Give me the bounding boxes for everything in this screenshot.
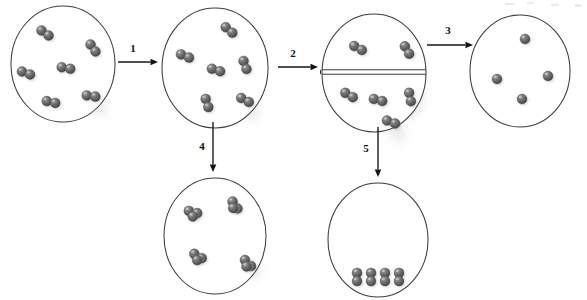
atom-highlight	[382, 278, 385, 280]
process-arrow-3: 3	[427, 24, 473, 48]
atom-highlight	[408, 98, 411, 100]
arrow-label-5: 5	[363, 142, 369, 154]
arrow-head	[311, 64, 319, 71]
atom-highlight	[223, 24, 226, 26]
vessel-outline	[328, 183, 428, 297]
atom-highlight	[44, 98, 47, 100]
molecule	[394, 268, 405, 288]
atom-highlight	[368, 270, 371, 272]
atom-highlight	[243, 263, 246, 265]
arrow-head	[375, 170, 382, 178]
atom-highlight	[396, 270, 399, 272]
process-arrow-2: 2	[278, 47, 318, 70]
atom-highlight	[27, 71, 30, 73]
atom-highlight	[238, 95, 241, 97]
arrow-head	[466, 42, 474, 49]
atom-highlight	[52, 100, 55, 102]
vessel-outline	[164, 178, 266, 294]
atom-highlight	[342, 90, 345, 92]
atom-highlight	[202, 96, 205, 98]
atom-highlight	[240, 58, 243, 60]
process-arrow-4: 4	[199, 122, 216, 172]
atom-highlight	[45, 32, 48, 34]
atom-highlight	[84, 92, 87, 94]
scan-artifact-4	[575, 4, 581, 7]
vessel-outline	[470, 15, 570, 127]
atom-highlight	[351, 43, 354, 45]
arrow-label-3: 3	[445, 24, 451, 36]
arrow-head	[151, 59, 159, 66]
atom-highlight	[186, 208, 189, 210]
atom-highlight	[350, 94, 353, 96]
vessel-outline	[322, 14, 426, 132]
atom-highlight	[178, 51, 181, 53]
molecule	[352, 268, 363, 288]
atom-highlight	[392, 120, 395, 122]
scan-artifact-2	[527, 2, 534, 4]
process-arrow-1: 1	[118, 42, 158, 65]
atom-highlight	[371, 96, 374, 98]
atom-highlight	[354, 270, 357, 272]
atom-highlight	[230, 205, 233, 207]
artifact-layer	[505, 2, 581, 7]
atom-highlight	[186, 54, 189, 56]
atom-highlight	[59, 64, 62, 66]
process-arrow-5: 5	[363, 127, 381, 177]
atom-highlight	[229, 30, 232, 32]
diagram-svg: 12345	[0, 0, 587, 300]
atom-highlight	[217, 68, 220, 70]
atom-highlight	[368, 278, 371, 280]
triatomic-cluster-container	[164, 178, 266, 294]
arrow-label-2: 2	[290, 47, 296, 59]
atom-highlight	[191, 251, 194, 253]
atom-highlight	[205, 104, 208, 106]
atom-highlight	[87, 41, 90, 43]
scan-artifact-3	[551, 4, 559, 6]
arrow-label-4: 4	[199, 140, 205, 152]
arrow-label-1: 1	[130, 42, 136, 54]
scan-artifact-1	[505, 3, 514, 5]
atom-highlight	[379, 98, 382, 100]
atom-highlight	[396, 278, 399, 280]
atom-highlight	[522, 36, 525, 38]
atom-highlight	[19, 68, 22, 70]
molecule	[366, 268, 377, 288]
diagram-canvas: 12345	[0, 0, 587, 300]
atom-highlight	[246, 99, 249, 101]
atom-highlight	[519, 96, 522, 98]
atom-highlight	[194, 257, 197, 259]
atom-highlight	[92, 48, 95, 50]
arrow-head	[210, 165, 217, 173]
atom-highlight	[92, 93, 95, 95]
atom-highlight	[209, 66, 212, 68]
atom-highlight	[67, 66, 70, 68]
partitioned-container	[321, 14, 426, 132]
atom-highlight	[38, 27, 41, 29]
atom-highlight	[406, 90, 409, 92]
atom-highlight	[382, 270, 385, 272]
atom-highlight	[243, 66, 246, 68]
atom-highlight	[402, 43, 405, 45]
molecule	[380, 268, 391, 288]
atom-highlight	[242, 257, 245, 259]
atom-highlight	[229, 198, 232, 200]
atom-highlight	[354, 278, 357, 280]
atom-highlight	[406, 51, 409, 53]
atom-highlight	[359, 47, 362, 49]
atom-highlight	[190, 213, 193, 215]
atom-highlight	[494, 76, 497, 78]
atom-highlight	[545, 73, 548, 75]
dissociated-atoms-container	[470, 15, 570, 127]
atom-highlight	[384, 117, 387, 119]
condensed-phase-container	[328, 183, 428, 297]
